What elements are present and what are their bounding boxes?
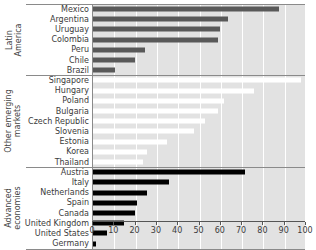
- category-label: Brazil: [0, 65, 92, 75]
- x-axis-tick: [113, 222, 114, 225]
- bar-row: Mexico: [0, 4, 316, 14]
- x-axis-tick: [241, 222, 242, 225]
- category-label: Italy: [0, 177, 92, 187]
- category-label: United States: [0, 228, 92, 238]
- category-label: Peru: [0, 45, 92, 55]
- bar: [92, 211, 135, 216]
- bar: [92, 88, 254, 93]
- bar: [92, 160, 143, 165]
- x-axis-tick-label: 30: [151, 226, 161, 235]
- bar-row: Estonia: [0, 137, 316, 147]
- bar-row: Bulgaria: [0, 106, 316, 116]
- bar-row: Brazil: [0, 65, 316, 75]
- bar-row: Slovenia: [0, 126, 316, 136]
- panel-separator: [26, 167, 305, 168]
- bar: [92, 139, 167, 144]
- bar-row: Argentina: [0, 14, 316, 24]
- bar-row: Peru: [0, 45, 316, 55]
- category-label: Bulgaria: [0, 106, 92, 116]
- category-label: Poland: [0, 96, 92, 106]
- x-axis-tick: [284, 222, 285, 225]
- bar: [92, 129, 194, 134]
- bar: [92, 27, 220, 32]
- bar: [92, 7, 279, 12]
- x-axis-tick: [199, 222, 200, 225]
- category-label: Spain: [0, 198, 92, 208]
- x-axis: 0102030405060708090100: [92, 222, 305, 242]
- bar: [92, 47, 145, 52]
- bar-row: Austria: [0, 167, 316, 177]
- bar: [92, 17, 228, 22]
- bar-row: Thailand: [0, 157, 316, 167]
- x-axis-tick-label: 90: [279, 226, 289, 235]
- bar-row: Poland: [0, 96, 316, 106]
- bar-row: Spain: [0, 198, 316, 208]
- category-label: Estonia: [0, 137, 92, 147]
- category-label: Colombia: [0, 35, 92, 45]
- category-label: Germany: [0, 239, 92, 249]
- panel-separator: [26, 75, 305, 76]
- category-label: United Kingdom: [0, 218, 92, 228]
- bar-row: Singapore: [0, 75, 316, 85]
- x-axis-tick-label: 10: [108, 226, 118, 235]
- x-axis-tick: [135, 222, 136, 225]
- bar-row: Colombia: [0, 35, 316, 45]
- panel-top-border: [26, 4, 305, 5]
- category-label: Argentina: [0, 14, 92, 24]
- x-axis-tick: [177, 222, 178, 225]
- x-axis-tick: [262, 222, 263, 225]
- x-axis-tick-label: 20: [130, 226, 140, 235]
- y-axis-line: [92, 4, 93, 249]
- category-label: Thailand: [0, 157, 92, 167]
- bar-row: Canada: [0, 208, 316, 218]
- category-label: Canada: [0, 208, 92, 218]
- bar: [92, 149, 147, 154]
- bar: [92, 78, 301, 83]
- x-axis-tick-label: 40: [172, 226, 182, 235]
- bar-row: Korea: [0, 147, 316, 157]
- bar-row: Czech Republic: [0, 116, 316, 126]
- category-label: Mexico: [0, 4, 92, 14]
- bar-row: Hungary: [0, 86, 316, 96]
- bar-row: Italy: [0, 177, 316, 187]
- category-label: Hungary: [0, 86, 92, 96]
- bar-row: Chile: [0, 55, 316, 65]
- x-axis-tick-label: 100: [297, 226, 312, 235]
- category-label: Austria: [0, 167, 92, 177]
- x-axis-tick-label: 60: [215, 226, 225, 235]
- bar: [92, 180, 169, 185]
- bar: [92, 68, 115, 73]
- bar: [92, 98, 224, 103]
- bar-row: Netherlands: [0, 188, 316, 198]
- bar: [92, 170, 245, 175]
- bar: [92, 58, 135, 63]
- bar: [92, 109, 218, 114]
- bar: [92, 200, 137, 205]
- category-label: Uruguay: [0, 24, 92, 34]
- category-label: Chile: [0, 55, 92, 65]
- x-axis-tick-label: 70: [236, 226, 246, 235]
- x-axis-tick-label: 80: [257, 226, 267, 235]
- bar: [92, 37, 218, 42]
- x-axis-tick: [220, 222, 221, 225]
- category-label: Czech Republic: [0, 116, 92, 126]
- x-axis-tick-label: 50: [193, 226, 203, 235]
- category-label: Slovenia: [0, 126, 92, 136]
- x-axis-tick: [305, 222, 306, 225]
- x-axis-tick: [156, 222, 157, 225]
- bar: [92, 119, 205, 124]
- x-axis-tick-label: 0: [89, 226, 94, 235]
- bar-row: Uruguay: [0, 24, 316, 34]
- category-label: Netherlands: [0, 188, 92, 198]
- x-axis-tick: [92, 222, 93, 225]
- bar: [92, 190, 147, 195]
- category-label: Singapore: [0, 75, 92, 85]
- category-label: Korea: [0, 147, 92, 157]
